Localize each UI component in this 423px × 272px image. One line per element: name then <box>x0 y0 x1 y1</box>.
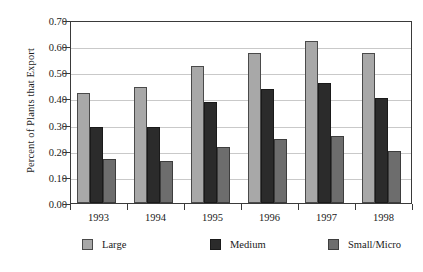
x-axis: 199319941995199619971998 <box>70 204 412 230</box>
y-axis-tick-label: 0.30 <box>23 120 67 131</box>
y-axis-tick-label: 0.60 <box>23 42 67 53</box>
bar <box>191 66 204 203</box>
chart-legend: LargeMediumSmall/Micro <box>70 239 412 263</box>
legend-item-large: Large <box>82 239 126 250</box>
x-axis-tick-mark <box>184 204 185 210</box>
legend-label: Medium <box>230 239 266 250</box>
y-axis-tick-label: 0.20 <box>23 146 67 157</box>
x-axis-tick-mark <box>298 204 299 210</box>
legend-item-medium: Medium <box>210 239 266 250</box>
bar <box>261 89 274 203</box>
x-axis-tick-mark <box>412 204 413 210</box>
bar <box>305 41 318 203</box>
bar-group-1995 <box>191 22 230 203</box>
legend-label: Small/Micro <box>348 239 401 250</box>
y-axis-tick-mark <box>63 21 70 22</box>
x-axis-tick-label-1993: 1993 <box>69 212 129 223</box>
bar <box>160 161 173 203</box>
legend-swatch-icon <box>210 239 221 250</box>
bar <box>388 151 401 203</box>
plot-area <box>70 21 412 204</box>
bars-layer <box>71 22 411 203</box>
bar-group-1993 <box>77 22 116 203</box>
legend-item-small-micro: Small/Micro <box>328 239 401 250</box>
x-axis-tick-mark <box>241 204 242 210</box>
bar <box>147 127 160 203</box>
bar-group-1997 <box>305 22 344 203</box>
x-axis-tick-label-1998: 1998 <box>354 212 414 223</box>
x-axis-tick-label-1997: 1997 <box>297 212 357 223</box>
bar <box>375 98 388 203</box>
legend-swatch-icon <box>82 239 93 250</box>
bar-group-1994 <box>134 22 173 203</box>
x-axis-tick-mark <box>127 204 128 210</box>
bar-chart-figure: Percent of Plants that Export 0.000.100.… <box>0 0 423 272</box>
x-axis-tick-label-1995: 1995 <box>183 212 243 223</box>
bar-group-1996 <box>248 22 287 203</box>
y-axis-tick-mark <box>63 178 70 179</box>
bar <box>274 139 287 203</box>
y-axis-tick-label: 0.50 <box>23 68 67 79</box>
legend-swatch-icon <box>328 239 339 250</box>
bar <box>77 93 90 203</box>
y-axis-tick-label: 0.40 <box>23 94 67 105</box>
y-axis-tick-mark <box>63 204 70 205</box>
x-axis-tick-label-1996: 1996 <box>240 212 300 223</box>
y-axis-tick-mark <box>63 47 70 48</box>
y-axis-tick-mark <box>63 99 70 100</box>
bar <box>217 147 230 203</box>
x-axis-tick-mark <box>70 204 71 210</box>
bar <box>103 159 116 203</box>
bar <box>318 83 331 203</box>
bar <box>362 53 375 203</box>
y-axis-tick-label: 0.10 <box>23 172 67 183</box>
bar <box>204 102 217 203</box>
y-axis-tick-label: 0.00 <box>23 199 67 210</box>
bar <box>134 87 147 203</box>
y-axis-tick-mark <box>63 152 70 153</box>
y-axis-tick-mark <box>63 73 70 74</box>
y-axis-tick-label: 0.70 <box>23 16 67 27</box>
bar <box>331 136 344 203</box>
legend-label: Large <box>102 239 126 250</box>
x-axis-tick-mark <box>355 204 356 210</box>
x-axis-tick-label-1994: 1994 <box>126 212 186 223</box>
bar-group-1998 <box>362 22 401 203</box>
bar <box>248 53 261 203</box>
y-axis-tick-mark <box>63 126 70 127</box>
bar <box>90 127 103 203</box>
